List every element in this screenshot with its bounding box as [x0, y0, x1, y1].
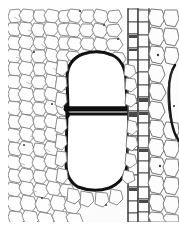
micrograph-figure: Black and white micrograph of a woody st… — [0, 0, 179, 229]
vessel-element-lower — [66, 114, 129, 190]
vessel-element-upper — [67, 52, 127, 108]
tissue-field — [8, 8, 179, 222]
tissue-rendering — [8, 8, 179, 222]
